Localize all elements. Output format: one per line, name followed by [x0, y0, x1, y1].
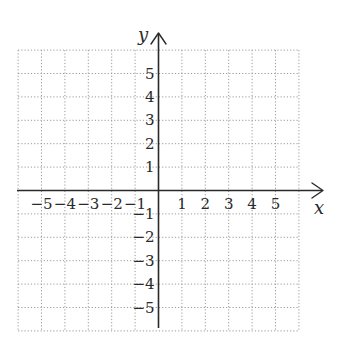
x-tick-label: 4	[247, 195, 257, 213]
y-tick-label: −5	[132, 299, 154, 317]
y-tick-label: −2	[132, 228, 154, 246]
x-tick-label: 2	[201, 195, 211, 213]
y-tick-label: 1	[145, 158, 155, 176]
y-tick-label: −1	[132, 205, 154, 223]
y-tick-label: 3	[145, 111, 155, 129]
x-axis-label: x	[314, 197, 324, 218]
y-axis-label: y	[137, 24, 149, 45]
y-tick-label: 2	[145, 135, 155, 153]
x-tick-label: 1	[177, 195, 187, 213]
x-tick-label: −2	[101, 195, 123, 213]
x-tick-label: 5	[271, 195, 281, 213]
y-tick-label: 5	[145, 65, 155, 83]
y-tick-label: −4	[132, 275, 154, 293]
coordinate-plane: x y −5−4−3−2−112345 54321−1−2−3−4−5	[0, 0, 347, 351]
x-tick-label: −4	[54, 195, 76, 213]
y-tick-label: 4	[145, 88, 155, 106]
y-tick-label: −3	[132, 252, 154, 270]
x-tick-label: −3	[77, 195, 99, 213]
x-tick-label: 3	[224, 195, 234, 213]
x-tick-labels: −5−4−3−2−112345	[30, 195, 280, 213]
x-tick-label: −5	[30, 195, 52, 213]
